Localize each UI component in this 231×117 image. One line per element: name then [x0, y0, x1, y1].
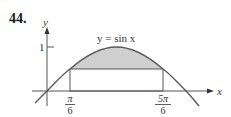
x-tick-pi-6-denominator: 6: [68, 105, 73, 116]
sine-region-diagram: y 1 x y = sin x π 6 5π 6: [0, 0, 231, 117]
y-axis-arrow-icon: [45, 27, 50, 34]
x-tick-5pi-6-denominator: 6: [161, 105, 166, 116]
x-axis-label: x: [216, 85, 222, 97]
inscribed-rectangle: [70, 69, 163, 91]
x-tick-pi-6-numerator: π: [67, 93, 73, 104]
curve-label: y = sin x: [97, 32, 136, 44]
y-axis-label: y: [42, 16, 48, 28]
x-tick-5pi-6-numerator: 5π: [158, 93, 169, 104]
y-tick-label: 1: [39, 41, 45, 53]
x-axis-arrow-icon: [207, 89, 214, 94]
